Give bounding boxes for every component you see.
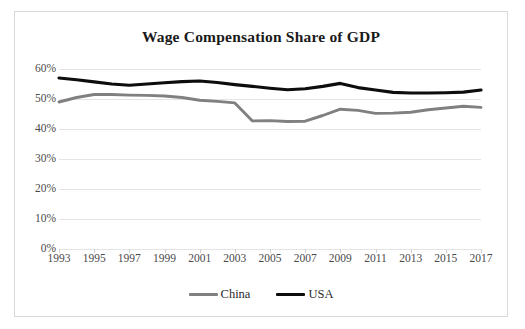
y-tick-label-50: 50% xyxy=(16,93,56,105)
y-tick-label-10: 10% xyxy=(16,213,56,225)
x-tick-label-2017: 2017 xyxy=(461,253,501,265)
y-tick-label-30: 30% xyxy=(16,153,56,165)
legend-swatch-usa xyxy=(276,293,305,297)
y-tick-label-40: 40% xyxy=(16,123,56,135)
x-tick-label-1995: 1995 xyxy=(74,253,114,265)
y-axis: 0%10%20%30%40%50%60% xyxy=(15,69,56,249)
x-tick-label-1997: 1997 xyxy=(109,253,149,265)
series-line-usa xyxy=(59,78,481,93)
chart-frame: Wage Compensation Share of GDP 0%10%20%3… xyxy=(14,11,508,317)
legend-label-china: China xyxy=(221,287,251,302)
x-tick-label-2013: 2013 xyxy=(391,253,431,265)
x-tick-label-2007: 2007 xyxy=(285,253,325,265)
y-tick-label-20: 20% xyxy=(16,183,56,195)
chart-title: Wage Compensation Share of GDP xyxy=(15,28,507,46)
x-tick-label-2003: 2003 xyxy=(215,253,255,265)
x-tick-label-2009: 2009 xyxy=(320,253,360,265)
x-tick-label-2015: 2015 xyxy=(426,253,466,265)
legend-label-usa: USA xyxy=(308,287,333,302)
x-tick-label-2011: 2011 xyxy=(356,253,396,265)
series-line-china xyxy=(59,95,481,122)
x-tick-label-2001: 2001 xyxy=(180,253,220,265)
chart-legend: ChinaUSA xyxy=(15,287,507,302)
series-lines xyxy=(59,69,481,249)
x-tick-label-1999: 1999 xyxy=(145,253,185,265)
x-axis: 1993199519971999200120032005200720092011… xyxy=(59,253,481,271)
y-tick-label-60: 60% xyxy=(16,63,56,75)
legend-entry-china[interactable]: China xyxy=(189,287,251,302)
x-tick-label-1993: 1993 xyxy=(39,253,79,265)
legend-swatch-china xyxy=(189,293,218,297)
x-tick-label-2005: 2005 xyxy=(250,253,290,265)
plot-area xyxy=(59,69,481,249)
legend-entry-usa[interactable]: USA xyxy=(276,287,333,302)
